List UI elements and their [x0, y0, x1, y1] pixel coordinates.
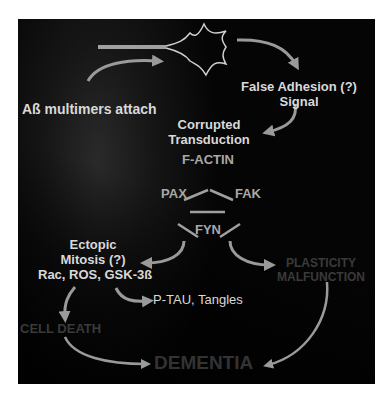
plasticity-malfunction-label: PLASTICITY MALFUNCTION [268, 257, 374, 285]
diagram-panel: Aß multimers attach False Adhesion (?) S… [18, 19, 375, 384]
fak-node: FAK [228, 187, 268, 202]
ectopic-line2: Mitosis (?) [38, 253, 148, 268]
fyn-node: FYN [188, 223, 228, 238]
cell-death-label: CELL DEATH [20, 322, 101, 337]
dementia-label: DEMENTIA [154, 352, 253, 374]
pax-node: PAX [154, 187, 194, 202]
false-adhesion-line1: False Adhesion (?) [234, 80, 364, 95]
plasticity-line2: MALFUNCTION [268, 271, 374, 285]
corrupted-line2: Transduction [154, 133, 264, 148]
factin-node: F-ACTIN [178, 153, 238, 168]
ectopic-line3: Rac, ROS, GSK-3ß [38, 268, 148, 283]
ptau-tangles-label: P-TAU, Tangles [153, 293, 243, 308]
ectopic-line1: Ectopic [38, 238, 148, 253]
false-adhesion-line2: Signal [234, 95, 364, 110]
plasticity-line1: PLASTICITY [268, 257, 374, 271]
abeta-label: Aß multimers attach [22, 101, 157, 117]
ectopic-mitosis-label: Ectopic Mitosis (?) Rac, ROS, GSK-3ß [38, 238, 148, 283]
neuron-icon [98, 24, 226, 75]
false-adhesion-label: False Adhesion (?) Signal [234, 80, 364, 110]
corrupted-line1: Corrupted [154, 118, 264, 133]
corrupted-transduction-label: Corrupted Transduction [154, 118, 264, 148]
